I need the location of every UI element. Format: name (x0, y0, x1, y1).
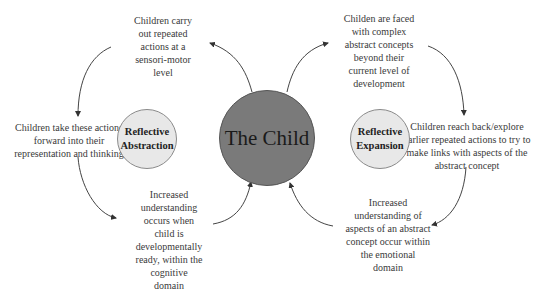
text-complex-abstract-concepts: Childen are faced with complex abstract … (331, 12, 427, 90)
text-line: ready, within the (122, 253, 216, 266)
text-line: occurs when (122, 214, 216, 227)
text-line: understanding (122, 201, 216, 214)
center-label: The Child (225, 126, 310, 151)
text-emotional-understanding: Increased understanding of aspects of an… (336, 196, 440, 274)
text-line: with complex (331, 25, 427, 38)
text-line: forward into their (4, 134, 134, 147)
arrow-sensorimotor-to-representation (78, 47, 111, 116)
circle-label-line: Expansion (356, 139, 403, 153)
circle-label-line: Reflective (356, 125, 403, 139)
circle-label-line: Reflective (120, 125, 173, 139)
text-line: earlier repeated actions to try to (402, 133, 532, 146)
text-line: abstract concept (402, 159, 532, 172)
text-line: actions at a (117, 40, 209, 53)
text-cognitive-understanding: Increased understanding occurs when chil… (122, 188, 216, 292)
text-line: out repeated (117, 27, 209, 40)
text-line: beyond their (331, 51, 427, 64)
arrow-child-to-abstract-concepts (287, 43, 328, 92)
text-line: aspects of an abstract (336, 222, 440, 235)
text-line: Increased (336, 196, 440, 209)
circle-label-line: Abstraction (120, 139, 173, 153)
text-line: level (117, 66, 209, 79)
text-line: Children reach back/explore (402, 120, 532, 133)
text-line: abstract concepts (331, 38, 427, 51)
text-line: domain (122, 279, 216, 292)
text-line: domain (336, 261, 440, 274)
text-line: current level of (331, 64, 427, 77)
text-line: concept occur within (336, 235, 440, 248)
text-line: child is (122, 227, 216, 240)
text-line: Childen are faced (331, 12, 427, 25)
text-line: developmentally (122, 240, 216, 253)
reflective-expansion-circle: Reflective Expansion (350, 109, 410, 169)
text-line: representation and thinking (4, 147, 134, 160)
text-line: make links with aspects of the (402, 146, 532, 159)
the-child-circle: The Child (219, 90, 315, 186)
text-reach-back-explore: Children reach back/explore earlier repe… (402, 120, 532, 172)
arrow-child-to-sensorimotor (210, 43, 252, 92)
reflective-abstraction-circle: Reflective Abstraction (117, 109, 177, 169)
text-line: sensori-motor (117, 53, 209, 66)
text-line: understanding of (336, 209, 440, 222)
text-representation-thinking: Children take these actions forward into… (4, 121, 134, 160)
text-line: Children take these actions (4, 121, 134, 134)
text-sensorimotor-actions: Children carry out repeated actions at a… (117, 14, 209, 79)
text-line: Children carry (117, 14, 209, 27)
text-line: cognitive (122, 266, 216, 279)
arrow-abstract-to-reach-back (428, 46, 464, 115)
arrow-representation-to-understanding (78, 157, 116, 218)
text-line: Increased (122, 188, 216, 201)
text-line: development (331, 77, 427, 90)
arrow-emotional-to-child (290, 183, 333, 226)
text-line: the emotional (336, 248, 440, 261)
arrow-understanding-to-child (213, 182, 251, 224)
